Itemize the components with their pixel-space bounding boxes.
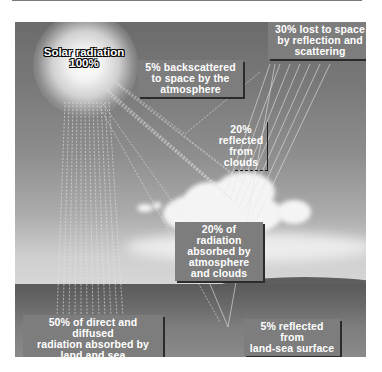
label-lost-to-space: 30% lost to space by reflection and scat… bbox=[268, 22, 366, 59]
label-line: scattering bbox=[272, 46, 366, 57]
label-line: 5% reflected from bbox=[248, 321, 336, 343]
label-line: atmosphere bbox=[142, 84, 239, 95]
label-absorbed-land-sea: 50% of direct and diffused radiation abs… bbox=[23, 315, 163, 357]
label-line: land and sea bbox=[27, 350, 159, 357]
radiation-diagram: Solar radiation 100% 30% lost to space b… bbox=[15, 22, 366, 357]
label-reflected-surface: 5% reflected from land-sea surface bbox=[244, 319, 340, 356]
reflected-clouds-bracket bbox=[235, 122, 268, 171]
label-line: land-sea surface bbox=[248, 343, 336, 354]
label-backscattered: 5% backscattered to space by the atmosph… bbox=[138, 60, 243, 97]
top-rule bbox=[12, 0, 362, 1]
solar-radiation-label: Solar radiation 100% bbox=[38, 47, 130, 69]
solar-radiation-percent: 100% bbox=[38, 58, 130, 69]
label-absorbed-atmosphere: 20% of radiation absorbed by atmosphere … bbox=[175, 222, 263, 281]
label-line: 50% of direct and diffused bbox=[27, 317, 159, 339]
label-line: 20% of radiation bbox=[179, 224, 259, 246]
label-line: and clouds bbox=[179, 268, 259, 279]
